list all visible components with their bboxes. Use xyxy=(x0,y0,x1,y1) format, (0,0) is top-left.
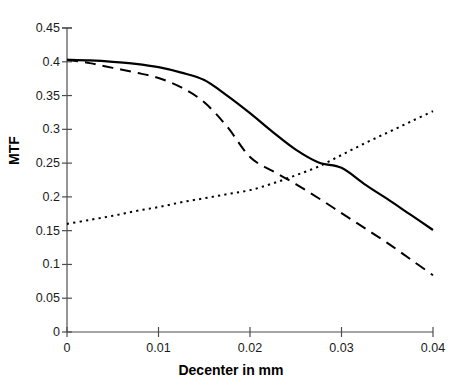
x-tick-label: 0.04 xyxy=(421,341,445,355)
y-tick-label: 0.2 xyxy=(10,190,60,204)
data-series-group xyxy=(67,60,433,276)
y-tick-label: 0.3 xyxy=(10,122,60,136)
series-line-dotted-curve xyxy=(67,111,433,224)
y-tick-label: 0.45 xyxy=(10,21,60,35)
x-axis-title: Decenter in mm xyxy=(0,362,462,378)
x-tick-label: 0.02 xyxy=(238,341,262,355)
x-tick-label: 0 xyxy=(64,341,71,355)
axis-lines xyxy=(67,28,433,332)
y-tick-label: 0.1 xyxy=(10,257,60,271)
y-axis-title: MTF xyxy=(6,136,22,165)
y-tick-label: 0.05 xyxy=(10,291,60,305)
series-line-solid-curve xyxy=(67,60,433,230)
x-tick-label: 0.03 xyxy=(329,341,353,355)
x-tick-label: 0.01 xyxy=(146,341,170,355)
y-tick-label: 0 xyxy=(10,325,60,339)
plot-area xyxy=(0,0,462,390)
y-tick-label: 0.15 xyxy=(10,224,60,238)
y-tick-label: 0.4 xyxy=(10,55,60,69)
mtf-vs-decenter-chart: 00.050.10.150.20.250.30.350.40.45 00.010… xyxy=(0,0,462,390)
series-line-dashed-curve xyxy=(67,60,433,276)
y-tick-label: 0.35 xyxy=(10,89,60,103)
